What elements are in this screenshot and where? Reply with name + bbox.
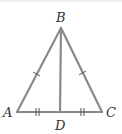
- segment-ab: [17, 28, 61, 112]
- vertex-label-b: B: [55, 10, 66, 25]
- vertex-label-c: C: [106, 105, 116, 120]
- triangle-diagram: B A C D: [0, 0, 122, 134]
- segment-bc: [61, 28, 102, 112]
- segment-bd: [60, 28, 61, 112]
- vertex-label-d: D: [54, 118, 66, 133]
- vertex-label-a: A: [2, 105, 12, 120]
